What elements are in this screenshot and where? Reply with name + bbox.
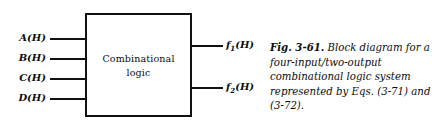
input-wire-b (50, 58, 86, 60)
figure-root: A(H) B(H) C(H) D(H) Combinational logic … (0, 0, 441, 130)
block-label-line-1: Combinational (87, 52, 190, 66)
output-label-f2-suffix: (H) (235, 81, 254, 92)
output-label-f1: f1(H) (226, 40, 254, 54)
input-label-b: B(H) (8, 53, 46, 63)
input-wire-d (50, 98, 86, 100)
input-label-c: C(H) (8, 73, 46, 83)
input-wire-a (50, 38, 86, 40)
figure-caption-number: Fig. 3-61. (270, 41, 324, 53)
output-wire-f1 (192, 45, 223, 47)
block-diagram: A(H) B(H) C(H) D(H) Combinational logic … (0, 0, 262, 130)
input-label-a: A(H) (8, 33, 46, 43)
block-label: Combinational logic (87, 52, 190, 79)
combinational-logic-block: Combinational logic (85, 13, 192, 117)
input-label-d: D(H) (8, 93, 46, 103)
input-wire-c (50, 78, 86, 80)
output-wire-f2 (192, 87, 223, 89)
output-label-f1-suffix: (H) (235, 39, 254, 50)
figure-caption: Fig. 3-61. Block diagram for a four-inpu… (270, 40, 438, 114)
output-label-f2: f2(H) (226, 82, 254, 96)
block-label-line-2: logic (87, 65, 190, 79)
